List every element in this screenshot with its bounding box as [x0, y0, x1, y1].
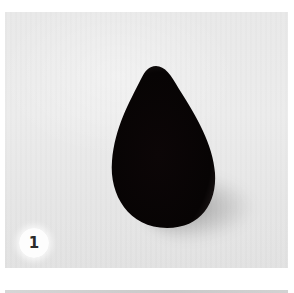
step-photo: 1 [5, 12, 288, 268]
step-number: 1 [29, 236, 39, 251]
step-number-badge: 1 [19, 228, 49, 258]
teardrop-object [109, 65, 217, 229]
